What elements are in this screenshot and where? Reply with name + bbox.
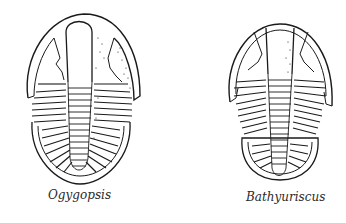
- bathyuriscus-caption: Bathyuriscus: [246, 190, 325, 204]
- ogygopsis-illustration: [18, 8, 144, 188]
- bathyuriscus-illustration: [224, 18, 336, 186]
- ogygopsis-caption: Ogygopsis: [48, 188, 111, 202]
